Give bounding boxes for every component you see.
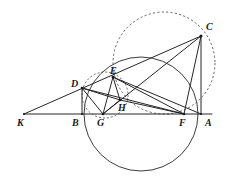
segment-d-f xyxy=(82,88,184,114)
vertex-dot-G xyxy=(102,113,105,116)
vertex-label-D: D xyxy=(71,79,78,89)
vertex-label-C: C xyxy=(206,22,213,32)
vertex-dot-B xyxy=(81,113,83,115)
segment-h-f xyxy=(120,100,184,114)
geometry-figure: K B G F A D E H C xyxy=(0,0,226,181)
vertex-label-A: A xyxy=(205,118,212,128)
geometry-canvas xyxy=(0,0,226,181)
vertex-dot-H xyxy=(119,99,122,102)
vertex-label-G: G xyxy=(97,118,104,128)
vertex-dot-K xyxy=(23,113,25,115)
vertex-label-K: K xyxy=(17,118,24,128)
vertex-dot-A xyxy=(200,113,202,115)
vertex-dot-C xyxy=(200,35,203,38)
vertex-label-H: H xyxy=(118,103,126,113)
vertex-label-E: E xyxy=(110,66,117,76)
vertex-dot-D xyxy=(81,87,84,90)
vertex-label-B: B xyxy=(72,118,79,128)
vertex-dot-F xyxy=(183,113,186,116)
vertex-label-F: F xyxy=(179,118,186,128)
